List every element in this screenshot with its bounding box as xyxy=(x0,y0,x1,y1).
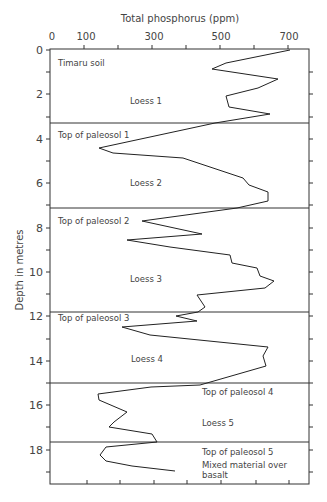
annotation-loess-2: Loess 2 xyxy=(130,178,162,188)
annotation-loess-1: Loess 1 xyxy=(130,96,162,106)
annotation-paleosol-1: Top of paleosol 1 xyxy=(57,130,129,140)
y-tick-label: 18 xyxy=(29,444,43,457)
y-tick-label: 12 xyxy=(29,310,43,323)
x-tick-label: 0 xyxy=(49,31,55,42)
annotation-timaru-soil: Timaru soil xyxy=(57,58,105,68)
annotation-paleosol-4: Top of paleosol 4 xyxy=(201,387,273,397)
annotation-mixed-material: Mixed material over xyxy=(202,460,287,470)
x-tick-label: 700 xyxy=(279,31,298,42)
x-tick-label: 500 xyxy=(211,31,230,42)
y-axis-label: Depth in metres xyxy=(14,229,25,310)
annotation-paleosol-5: Top of paleosol 5 xyxy=(201,447,273,457)
y-tick-label: 10 xyxy=(29,266,43,279)
annotation-loess-3: Loess 3 xyxy=(130,274,162,284)
y-tick-label: 14 xyxy=(29,355,43,368)
annotation-loess-4: Loess 4 xyxy=(131,354,163,364)
top-ticks xyxy=(84,45,288,49)
x-axis-label: Total phosphorus (ppm) xyxy=(120,13,240,24)
y-tick-label: 0 xyxy=(36,44,43,57)
annotation-loess-5: Loess 5 xyxy=(202,418,234,428)
phosphorus-depth-chart: Total phosphorus (ppm) 0 100 300 500 700… xyxy=(0,0,327,502)
y-tick-label: 8 xyxy=(36,222,43,235)
y-tick-label: 16 xyxy=(29,399,43,412)
phosphorus-curve xyxy=(98,50,290,471)
y-tick-label: 2 xyxy=(36,88,43,101)
bottom-ticks xyxy=(87,480,289,484)
x-tick-label: 300 xyxy=(144,31,163,42)
annotation-paleosol-3: Top of paleosol 3 xyxy=(57,313,129,323)
x-tick-label: 100 xyxy=(76,31,95,42)
y-tick-label: 6 xyxy=(36,177,43,190)
y-ticks xyxy=(46,50,313,472)
annotation-basalt: basalt xyxy=(202,470,229,480)
plot-frame xyxy=(50,49,309,484)
y-tick-label: 4 xyxy=(36,133,43,146)
annotation-paleosol-2: Top of paleosol 2 xyxy=(57,216,129,226)
